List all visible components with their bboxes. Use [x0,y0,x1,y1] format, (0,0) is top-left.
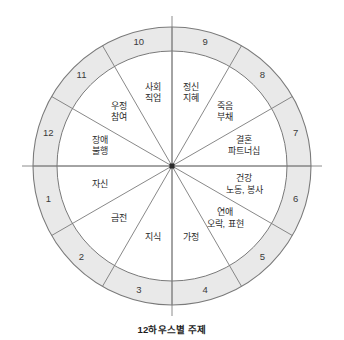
figure-caption: 12하우스별 주제 [0,322,344,336]
house-theme-line1: 지식 [145,233,161,243]
house-divider-line [52,166,172,236]
house-theme-line1: 사회 [145,82,161,92]
house-number-9: 9 [202,38,207,48]
house-number-10: 10 [134,38,145,48]
house-number-4: 4 [202,285,207,295]
house-number-1: 1 [46,194,51,204]
house-theme-line1: 우정 [111,101,127,111]
house-number-6: 6 [293,194,298,204]
house-theme-line2: 부채 [217,113,233,125]
house-theme-line1: 죽음 [217,101,233,111]
house-number-11: 11 [77,71,87,81]
house-number-2: 2 [79,252,84,262]
house-theme-line2: 오락, 표현 [207,219,244,231]
house-theme-line2: 지혜 [183,94,199,106]
house-number-7: 7 [293,128,298,138]
house-number-12: 12 [43,128,54,138]
house-theme-line2: 파트너십 [228,147,260,159]
house-theme-9: 정신지혜 [183,82,199,105]
house-theme-3: 지식 [145,233,161,245]
house-theme-line1: 장애 [92,135,108,145]
house-theme-4: 가정 [183,233,199,245]
house-theme-11: 우정참여 [111,101,127,124]
house-theme-6: 건강노동, 봉사 [226,174,263,197]
house-theme-8: 죽음부채 [217,101,233,124]
house-theme-line1: 결혼 [236,135,252,145]
house-wheel-diagram [0,0,344,340]
house-theme-line1: 자신 [92,180,108,190]
house-theme-line1: 정신 [183,82,199,92]
center-hub [170,164,175,169]
house-theme-line2: 불행 [92,147,108,159]
house-theme-5: 연애오락, 표현 [207,208,244,231]
house-theme-line2: 직업 [145,94,161,106]
house-theme-2: 금전 [111,213,127,225]
house-theme-1: 자신 [92,180,108,192]
house-theme-line1: 금전 [111,213,127,223]
house-number-5: 5 [260,252,265,262]
house-theme-12: 장애불행 [92,135,108,158]
house-theme-line2: 노동, 봉사 [226,185,263,197]
house-theme-10: 사회직업 [145,82,161,105]
house-theme-line2: 참여 [111,113,127,125]
house-theme-line1: 연애 [217,208,233,218]
house-theme-7: 결혼파트너십 [228,135,260,158]
house-number-3: 3 [136,285,141,295]
house-divider-line [103,166,173,286]
house-theme-line1: 가정 [183,233,199,243]
house-wheel-figure: 1자신2금전3지식4가정5연애오락, 표현6건강노동, 봉사7결혼파트너십8죽음… [0,0,344,340]
house-number-8: 8 [260,71,265,81]
house-theme-line1: 건강 [236,174,252,184]
